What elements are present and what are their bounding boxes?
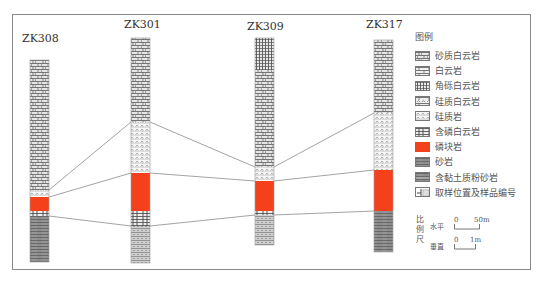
phosphorite-swatch-icon <box>415 142 430 152</box>
scale-vertical-bar-icon <box>454 244 476 250</box>
scale-vertical-zero: 0 <box>454 236 458 244</box>
legend-label: 取样位置及样品编号 <box>435 186 516 199</box>
legend-label: 含黏土质粉砂岩 <box>435 171 498 184</box>
well-label-zk308: ZK308 <box>22 32 59 45</box>
well-label-zk301: ZK301 <box>124 18 161 31</box>
legend: 图例 砂质白云岩 白云岩 角砾白云岩 硅质白云岩 硅质岩 含磷白云岩 磷块岩 砂… <box>415 30 527 200</box>
siliceous-rock-swatch-icon <box>415 111 430 121</box>
layer-phosphorite <box>374 170 393 211</box>
scale-horizontal: 水平 0 50m <box>430 221 444 231</box>
legend-label: 磷块岩 <box>435 140 462 153</box>
legend-label: 含磷白云岩 <box>435 125 480 138</box>
sandstone-swatch-icon <box>415 157 430 167</box>
legend-item-brecciated-dolomite: 角砾白云岩 <box>415 78 527 93</box>
well-columns <box>30 38 393 263</box>
layer-clayey-silty-sandstone <box>255 215 274 245</box>
siliceous-dolomite-swatch-icon <box>415 96 430 106</box>
layer-phosphorite <box>131 173 150 211</box>
layer-siliceous-rock <box>30 190 49 197</box>
layer-phosphatic-dolomite <box>131 211 150 226</box>
scale-vertical-value: 1m <box>470 236 481 244</box>
correlation-lines <box>49 113 374 226</box>
correlation-line-phosphorite-top <box>49 170 374 197</box>
brecciated-dolomite-swatch-icon <box>415 81 430 91</box>
scale-horizontal-value: 50m <box>474 216 490 224</box>
legend-title: 图例 <box>415 30 527 43</box>
layer-sandy-dolomite <box>374 40 393 113</box>
layer-sandstone <box>374 211 393 252</box>
scale-vertical-label: 垂直 <box>430 243 444 251</box>
layer-sandstone <box>30 216 49 262</box>
legend-label: 砂岩 <box>435 155 453 168</box>
legend-item-sandy-dolomite: 砂质白云岩 <box>415 48 527 63</box>
legend-label: 角砾白云岩 <box>435 79 480 92</box>
layer-siliceous-rock <box>374 113 393 170</box>
layer-sandy-dolomite <box>131 38 150 122</box>
well-column-zk308 <box>30 60 49 262</box>
legend-item-phosphorite: 磷块岩 <box>415 139 527 154</box>
dolomite-swatch-icon <box>415 66 430 76</box>
phosphatic-dolomite-swatch-icon <box>415 127 430 137</box>
correlation-line-phosphorite-base <box>49 211 374 226</box>
sample-location-marker-icon <box>415 187 430 197</box>
layer-sandy-dolomite <box>30 60 49 190</box>
legend-label: 白云岩 <box>435 64 462 77</box>
scale-bar: 比例尺 水平 0 50m 垂直 0 1m <box>416 215 526 265</box>
legend-item-sample-location: 取样位置及样品编号 <box>415 185 527 200</box>
layer-siliceous-rock <box>131 122 150 173</box>
legend-label: 砂质白云岩 <box>435 49 480 62</box>
legend-label: 硅质白云岩 <box>435 95 480 108</box>
scale-horizontal-bar-icon <box>454 224 480 230</box>
legend-item-sandstone: 砂岩 <box>415 154 527 169</box>
legend-label: 硅质岩 <box>435 110 462 123</box>
layer-sandy-dolomite <box>255 70 274 167</box>
layer-phosphatic-dolomite <box>30 211 49 216</box>
layer-siliceous-rock <box>255 167 274 181</box>
legend-item-siliceous-rock: 硅质岩 <box>415 109 527 124</box>
clayey-silty-sandstone-swatch-icon <box>415 172 430 182</box>
well-column-zk317 <box>374 40 393 252</box>
correlation-line-siliceous-top <box>49 113 374 190</box>
layer-phosphorite <box>30 197 49 211</box>
scale-title: 比例尺 <box>416 215 425 245</box>
layer-brecciated-dolomite <box>255 38 274 70</box>
layer-phosphatic-dolomite <box>255 211 274 215</box>
scale-horizontal-label: 水平 <box>430 223 444 231</box>
legend-item-siliceous-dolomite: 硅质白云岩 <box>415 94 527 109</box>
scale-horizontal-zero: 0 <box>454 216 458 224</box>
legend-item-dolomite: 白云岩 <box>415 63 527 78</box>
well-label-zk309: ZK309 <box>247 20 284 33</box>
layer-clayey-silty-sandstone <box>131 226 150 263</box>
well-label-zk317: ZK317 <box>366 18 403 31</box>
sandy-dolomite-swatch-icon <box>415 51 430 61</box>
legend-item-phosphatic-dolomite: 含磷白云岩 <box>415 124 527 139</box>
scale-vertical: 垂直 0 1m <box>430 241 444 251</box>
well-column-zk309 <box>255 38 274 245</box>
well-column-zk301 <box>131 38 150 263</box>
legend-item-clayey-silty-sandstone: 含黏土质粉砂岩 <box>415 170 527 185</box>
layer-phosphorite <box>255 181 274 211</box>
